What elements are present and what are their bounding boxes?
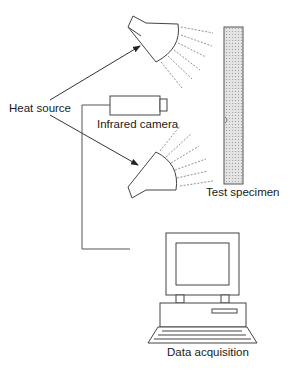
- data-acquisition-label: Data acquisition: [167, 346, 249, 358]
- heat-lamp-upper: [128, 16, 179, 62]
- computer: [148, 233, 257, 343]
- arrow-to-upper-lamp: [50, 46, 140, 100]
- infrared-camera-label: Infrared camera: [97, 118, 178, 130]
- test-specimen: [224, 27, 243, 184]
- heat-source-label: Heat source: [9, 102, 71, 114]
- heat-lamp-lower: [128, 152, 177, 198]
- infrared-camera: [110, 96, 167, 115]
- test-specimen-label: Test specimen: [206, 186, 280, 198]
